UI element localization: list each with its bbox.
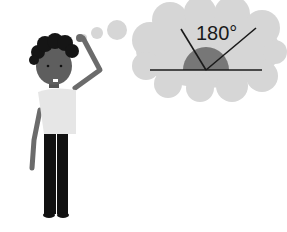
thought-dot-medium [91,27,103,39]
illustration [0,0,287,232]
person [29,33,100,218]
thought-dot-large [107,20,127,40]
angle-label: 180° [196,22,237,45]
